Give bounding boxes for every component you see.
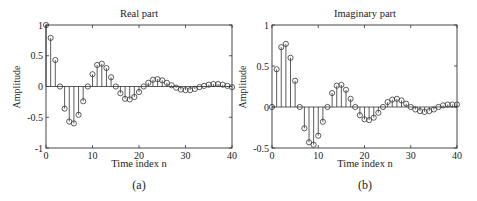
x-tick-label: 40	[227, 150, 237, 161]
stem-figure: Real part Amplitude Time index n (a) 010…	[0, 0, 477, 201]
y-tick-label: -0.5	[253, 143, 269, 154]
axes-frame	[272, 25, 457, 148]
x-tick-label: 20	[134, 150, 144, 161]
imaginary-part-caption: (b)	[358, 178, 372, 192]
imaginary-part-axes: 010203040-0.500.51	[253, 20, 462, 162]
imaginary-part-plot: Imaginary part Amplitude Time index n (b…	[237, 8, 462, 192]
x-tick-label: 0	[270, 150, 275, 161]
imaginary-part-title: Imaginary part	[334, 8, 396, 19]
x-tick-label: 10	[313, 150, 323, 161]
y-tick-label: -0.5	[27, 112, 43, 123]
real-part-caption: (a)	[132, 178, 145, 192]
y-tick-label: 0.5	[257, 61, 270, 72]
imaginary-part-ylabel: Amplitude	[237, 65, 248, 108]
real-part-title: Real part	[120, 8, 158, 19]
y-tick-label: 1	[38, 20, 43, 31]
y-tick-label: 1	[264, 20, 269, 31]
y-tick-label: 0	[264, 102, 269, 113]
x-tick-label: 30	[181, 150, 191, 161]
x-tick-label: 0	[44, 150, 49, 161]
real-part-plot: Real part Amplitude Time index n (a) 010…	[11, 8, 237, 192]
real-part-ylabel: Amplitude	[11, 65, 22, 108]
y-tick-label: -1	[35, 143, 43, 154]
y-tick-label: 0	[38, 81, 43, 92]
x-tick-label: 20	[360, 150, 370, 161]
x-tick-label: 10	[88, 150, 98, 161]
x-tick-label: 40	[452, 150, 462, 161]
x-tick-label: 30	[406, 150, 416, 161]
real-part-axes: 010203040-1-0.500.51	[27, 20, 237, 162]
y-tick-label: 0.5	[31, 50, 44, 61]
